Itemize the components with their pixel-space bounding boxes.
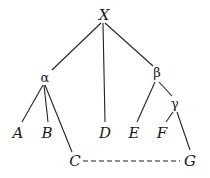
node-f: F [156, 124, 168, 142]
node-beta: β [153, 65, 161, 80]
edge-gamma-f [166, 112, 173, 122]
edge-x-beta [105, 23, 153, 66]
edge-alpha-a [22, 85, 43, 122]
edge-x-alpha [52, 23, 101, 70]
node-c: C [69, 152, 81, 170]
tree-diagram: X α β γ A B D E F C G [0, 0, 210, 178]
edge-beta-e [137, 82, 155, 122]
node-g: G [184, 152, 196, 170]
node-x: X [98, 6, 111, 24]
edge-x-d [103, 23, 105, 122]
node-alpha: α [41, 70, 50, 85]
edge-gamma-g [177, 112, 190, 150]
edge-beta-gamma [159, 82, 172, 96]
node-d: D [98, 124, 111, 142]
node-gamma: γ [171, 96, 179, 111]
node-b: B [40, 124, 52, 142]
node-e: E [128, 124, 140, 142]
node-a: A [11, 124, 24, 142]
